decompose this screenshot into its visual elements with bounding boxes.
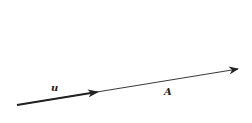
vector-diagram: u A (0, 0, 252, 123)
vector-u-label: u (51, 82, 58, 93)
vector-u-arrow (17, 92, 97, 105)
vector-A-label: A (163, 86, 172, 97)
